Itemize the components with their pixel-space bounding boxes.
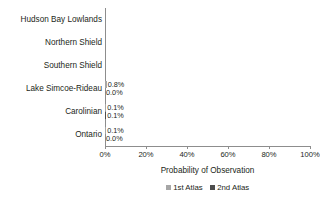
category-label: Lake Simcoe-Rideau xyxy=(0,84,105,93)
category-label: Ontario xyxy=(0,130,105,139)
chart-rows: Hudson Bay LowlandsNorthern ShieldSouthe… xyxy=(0,8,310,146)
bar-wrap: 0.1% xyxy=(105,104,310,112)
x-axis-tick xyxy=(269,146,270,149)
legend-item[interactable]: 2nd Atlas xyxy=(210,183,250,192)
category-label: Carolinian xyxy=(0,107,105,116)
x-axis-tick xyxy=(105,146,106,149)
chart-row: Ontario0.1%0.0% xyxy=(0,123,310,146)
chart-row: Carolinian0.1%0.1% xyxy=(0,100,310,123)
bar-wrap xyxy=(105,43,310,51)
bar-wrap xyxy=(105,58,310,66)
x-axis-tick-label: 0% xyxy=(100,150,111,159)
bar-wrap: 0.0% xyxy=(105,89,310,97)
bar-wrap: 0.1% xyxy=(105,112,310,120)
bar-chart: Hudson Bay LowlandsNorthern ShieldSouthe… xyxy=(0,0,320,200)
bar-wrap xyxy=(105,66,310,74)
bar-group xyxy=(105,31,310,54)
legend-swatch-icon xyxy=(166,185,171,190)
x-axis-tick-label: 20% xyxy=(138,150,153,159)
bar-group: 0.8%0.0% xyxy=(105,77,310,100)
chart-row: Lake Simcoe-Rideau0.8%0.0% xyxy=(0,77,310,100)
bar-value-label: 0.1% xyxy=(106,112,124,120)
bar-group xyxy=(105,8,310,31)
bar-wrap: 0.1% xyxy=(105,127,310,135)
x-axis-tick xyxy=(187,146,188,149)
x-axis-tick-label: 80% xyxy=(261,150,276,159)
legend-item[interactable]: 1st Atlas xyxy=(166,183,203,192)
bar-value-label: 0.0% xyxy=(105,89,123,97)
category-label: Southern Shield xyxy=(0,61,105,70)
chart-row: Southern Shield xyxy=(0,54,310,77)
legend-label: 1st Atlas xyxy=(173,183,202,192)
x-axis-tick xyxy=(228,146,229,149)
legend-swatch-icon xyxy=(210,185,215,190)
bar-wrap xyxy=(105,12,310,20)
legend-label: 2nd Atlas xyxy=(217,183,249,192)
x-axis-tick-label: 40% xyxy=(179,150,194,159)
bar-wrap xyxy=(105,20,310,28)
bar-group: 0.1%0.0% xyxy=(105,123,310,146)
bar-wrap: 0.0% xyxy=(105,135,310,143)
chart-row: Hudson Bay Lowlands xyxy=(0,8,310,31)
category-label: Hudson Bay Lowlands xyxy=(0,15,105,24)
x-axis-tick xyxy=(310,146,311,149)
bar-group: 0.1%0.1% xyxy=(105,100,310,123)
x-axis-ticks: 0%20%40%60%80%100% xyxy=(105,146,310,160)
x-axis-title: Probability of Observation xyxy=(105,166,310,176)
chart-row: Northern Shield xyxy=(0,31,310,54)
bar-wrap xyxy=(105,35,310,43)
x-axis-tick xyxy=(146,146,147,149)
bar-value-label: 0.0% xyxy=(105,135,123,143)
chart-legend: 1st Atlas2nd Atlas xyxy=(105,183,310,192)
bar-wrap: 0.8% xyxy=(105,81,310,89)
bar-group xyxy=(105,54,310,77)
x-axis-tick-label: 100% xyxy=(300,150,319,159)
x-axis-tick-label: 60% xyxy=(220,150,235,159)
category-label: Northern Shield xyxy=(0,38,105,47)
